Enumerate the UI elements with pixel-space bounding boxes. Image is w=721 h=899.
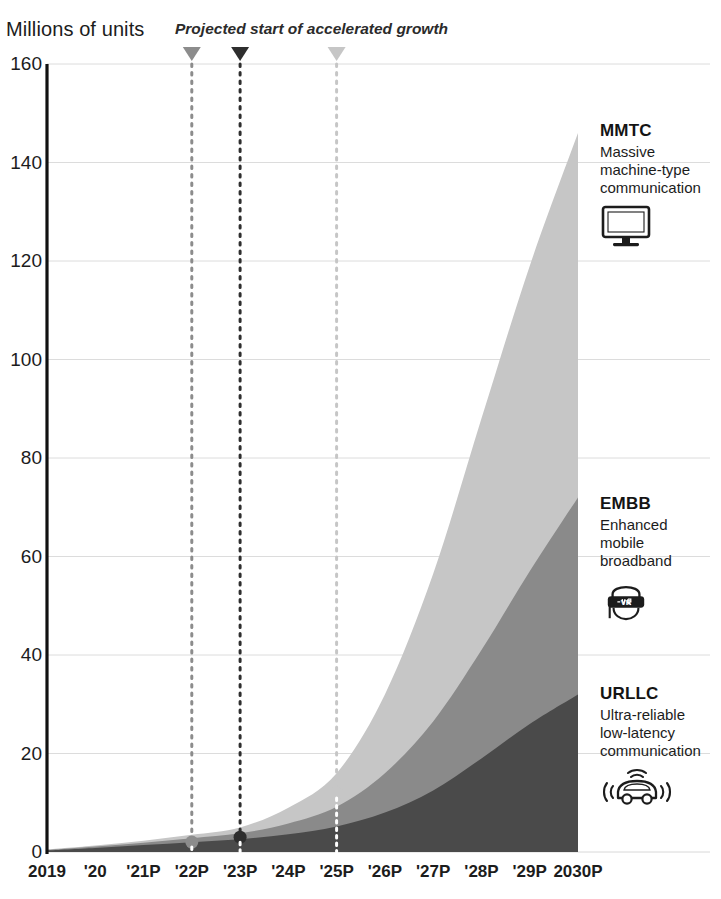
stacked-areas [47, 133, 578, 852]
marker-mmtc [328, 47, 346, 852]
marker-urllc [183, 47, 201, 852]
y-axis-ticks: 020406080100120140160 [0, 0, 42, 899]
legend-title-urllc: URLLC [600, 685, 721, 704]
legend-item-mmtc[interactable]: MMTC Massive machine-type communication [600, 122, 721, 250]
x-tick-label: '28P [464, 862, 498, 882]
x-tick-label: 2030P [553, 862, 602, 882]
y-tick-label: 40 [4, 644, 42, 666]
x-tick-label: '27P [416, 862, 450, 882]
legend-description-mmtc: Massive machine-type communication [600, 143, 721, 198]
y-tick-label: 140 [4, 152, 42, 174]
x-tick-label: '24P [271, 862, 305, 882]
y-tick-label: 20 [4, 743, 42, 765]
x-tick-label: '29P [513, 862, 547, 882]
svg-text:VR: VR [621, 598, 632, 607]
y-tick-label: 60 [4, 546, 42, 568]
marker-embb [231, 47, 249, 852]
x-tick-label: 2019 [28, 862, 66, 882]
projection-markers [183, 47, 346, 852]
y-tick-label: 120 [4, 250, 42, 272]
legend-description-urllc: Ultra-reliable low-latency communication [600, 706, 721, 761]
connected-car-icon [600, 767, 674, 813]
y-tick-label: 0 [4, 841, 42, 863]
x-axis-ticks: 2019'20'21P'22P'23P'24P'25P'26P'27P'28P'… [0, 862, 721, 899]
x-tick-label: '20 [84, 862, 107, 882]
legend-item-urllc[interactable]: URLLC Ultra-reliable low-latency communi… [600, 685, 721, 813]
legend-title-mmtc: MMTC [600, 122, 721, 141]
marker-triangle-icon [231, 47, 249, 61]
x-tick-label: '26P [368, 862, 402, 882]
x-tick-label: '23P [223, 862, 257, 882]
chart-container: Millions of units Projected start of acc… [0, 0, 721, 899]
x-tick-label: '25P [319, 862, 353, 882]
x-tick-label: '22P [175, 862, 209, 882]
marker-triangle-icon [328, 47, 346, 61]
y-tick-label: 80 [4, 447, 42, 469]
monitor-icon [600, 204, 652, 250]
x-tick-label: '21P [126, 862, 160, 882]
legend-title-embb: EMBB [600, 495, 721, 514]
marker-triangle-icon [183, 47, 201, 61]
legend-description-embb: Enhanced mobile broadband [600, 516, 721, 571]
legend-item-embb[interactable]: EMBB Enhanced mobile broadband VR [600, 495, 721, 623]
y-tick-label: 160 [4, 53, 42, 75]
y-tick-label: 100 [4, 349, 42, 371]
vr-headset-icon: VR [600, 577, 652, 623]
